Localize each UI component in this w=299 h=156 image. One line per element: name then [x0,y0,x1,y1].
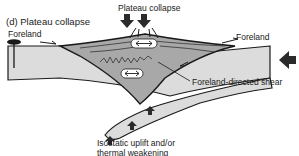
down-arrow-icon [137,14,151,28]
foreland-directed-shear-label: Foreland-directed shear [192,78,282,87]
foreland-right-label: Foreland [236,33,270,42]
uplift-label-line2: thermal weakening [97,148,175,156]
left-arrow-icon [279,51,296,69]
uplift-label-line1: Isostatic uplift and/or [97,138,175,148]
plateau-collapse-label: Plateau collapse [118,4,180,13]
extension-symbol-upper [131,39,157,48]
panel-title: (d) Plateau collapse [6,17,90,27]
extension-symbol-lower [121,69,143,78]
down-arrow-icon [120,14,134,28]
isostatic-uplift-label: Isostatic uplift and/or thermal weakenin… [97,138,175,156]
shear-half-arrow-left [40,41,56,44]
foreland-left-label: Foreland [8,30,42,39]
diagram-canvas: (d) Plateau collapse Plateau collapse Fo… [0,0,299,156]
